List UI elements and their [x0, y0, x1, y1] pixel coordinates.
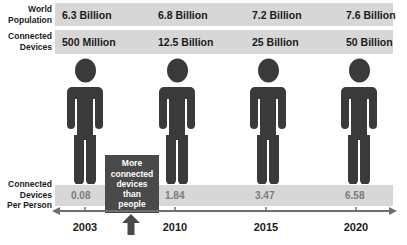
- connected-devices-value-2010: 12.5 Billion: [158, 36, 213, 48]
- row-label-connected-devices: Connected Devices: [8, 31, 52, 52]
- timeline-arrow-right: [389, 207, 397, 215]
- person-icon: [64, 58, 107, 184]
- connected-devices-value-band: 500 Million 12.5 Billion 25 Billion 50 B…: [55, 30, 393, 54]
- world-population-value-2003: 6.3 Billion: [62, 9, 112, 21]
- row-label-connected-devices-line1: Connected: [8, 31, 52, 42]
- row-label-devices-per-person-line3: Per Person: [7, 200, 52, 211]
- devices-per-person-value-2010: 1.84: [165, 190, 184, 201]
- row-label-devices-per-person: Connected Devices Per Person: [7, 179, 52, 211]
- world-population-value-band: 6.3 Billion 6.8 Billion 7.2 Billion 7.6 …: [55, 3, 393, 26]
- world-population-value-2010: 6.8 Billion: [158, 9, 208, 21]
- connected-devices-value-2003: 500 Million: [62, 36, 116, 48]
- row-label-devices-per-person-line2: Devices: [7, 190, 52, 201]
- year-label-2010: 2010: [155, 221, 195, 233]
- year-label-2003: 2003: [65, 221, 105, 233]
- person-icon: [156, 58, 199, 184]
- year-label-2015: 2015: [246, 221, 286, 233]
- devices-per-person-value-2003: 0.08: [71, 190, 90, 201]
- callout-line1: More: [111, 158, 154, 168]
- callout-line2: connected: [111, 169, 154, 179]
- year-label-2020: 2020: [336, 221, 376, 233]
- iot-growth-infographic: World Population Connected Devices Conne…: [0, 0, 407, 245]
- connected-devices-value-2020: 50 Billion: [346, 36, 393, 48]
- row-label-world-population-line1: World: [8, 4, 52, 15]
- timeline-arrow-left: [52, 207, 60, 215]
- devices-per-person-value-2015: 3.47: [255, 190, 274, 201]
- person-icon: [338, 58, 381, 184]
- devices-per-person-value-2020: 6.58: [345, 190, 364, 201]
- world-population-value-2020: 7.6 Billion: [346, 9, 396, 21]
- connected-devices-value-2015: 25 Billion: [252, 36, 299, 48]
- row-label-world-population: World Population: [8, 4, 52, 25]
- row-label-connected-devices-line2: Devices: [8, 42, 52, 53]
- callout-line4: than: [111, 189, 154, 199]
- callout-line3: devices: [111, 179, 154, 189]
- person-icon: [247, 58, 290, 184]
- timeline-axis: [52, 204, 397, 218]
- row-label-world-population-line2: Population: [8, 15, 52, 26]
- world-population-value-2015: 7.2 Billion: [252, 9, 302, 21]
- row-label-devices-per-person-line1: Connected: [7, 179, 52, 190]
